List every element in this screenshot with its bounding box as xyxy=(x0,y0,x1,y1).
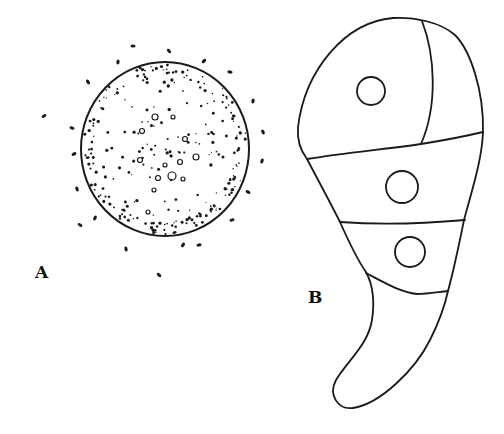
nucleus-1 xyxy=(357,77,385,105)
septum-longitudinal xyxy=(421,21,433,144)
panel-label-b: B xyxy=(308,287,322,307)
external-particles xyxy=(41,44,266,277)
septum-3 xyxy=(366,273,448,294)
cell-a-vacuoles xyxy=(138,114,200,214)
panel-a-spherical-cell xyxy=(41,44,266,277)
panel-label-a: A xyxy=(35,262,48,282)
body-b-outline xyxy=(298,18,483,408)
nucleus-2 xyxy=(386,171,418,203)
panel-b-club-shaped-body xyxy=(298,18,483,408)
septum-2 xyxy=(340,220,465,224)
septum-1 xyxy=(307,132,483,159)
nucleus-3 xyxy=(395,237,425,267)
cell-a-granules xyxy=(83,64,246,236)
figure-canvas xyxy=(0,0,504,434)
